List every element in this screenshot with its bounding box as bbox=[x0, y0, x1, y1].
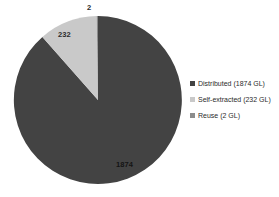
chart-legend: Distributed (1874 GL) Self-extracted (23… bbox=[190, 78, 279, 126]
legend-item-self-extracted[interactable]: Self-extracted (232 GL) bbox=[190, 94, 279, 105]
legend-swatch-icon bbox=[190, 113, 195, 118]
legend-swatch-icon bbox=[190, 81, 195, 86]
legend-label: Self-extracted (232 GL) bbox=[198, 95, 271, 104]
pie-plot-area: 2 232 1874 bbox=[0, 0, 190, 197]
legend-label: Reuse (2 GL) bbox=[198, 111, 240, 120]
legend-swatch-icon bbox=[190, 97, 195, 102]
legend-item-distributed[interactable]: Distributed (1874 GL) bbox=[190, 78, 279, 89]
pie-svg bbox=[0, 0, 190, 197]
legend-label: Distributed (1874 GL) bbox=[198, 79, 265, 88]
legend-item-reuse[interactable]: Reuse (2 GL) bbox=[190, 110, 279, 121]
slice-label-reuse: 2 bbox=[87, 4, 91, 12]
pie-chart: 2 232 1874 Distributed (1874 GL) Self-ex… bbox=[0, 0, 279, 197]
slice-label-self-extracted: 232 bbox=[58, 31, 71, 39]
slice-label-distributed: 1874 bbox=[116, 161, 133, 169]
